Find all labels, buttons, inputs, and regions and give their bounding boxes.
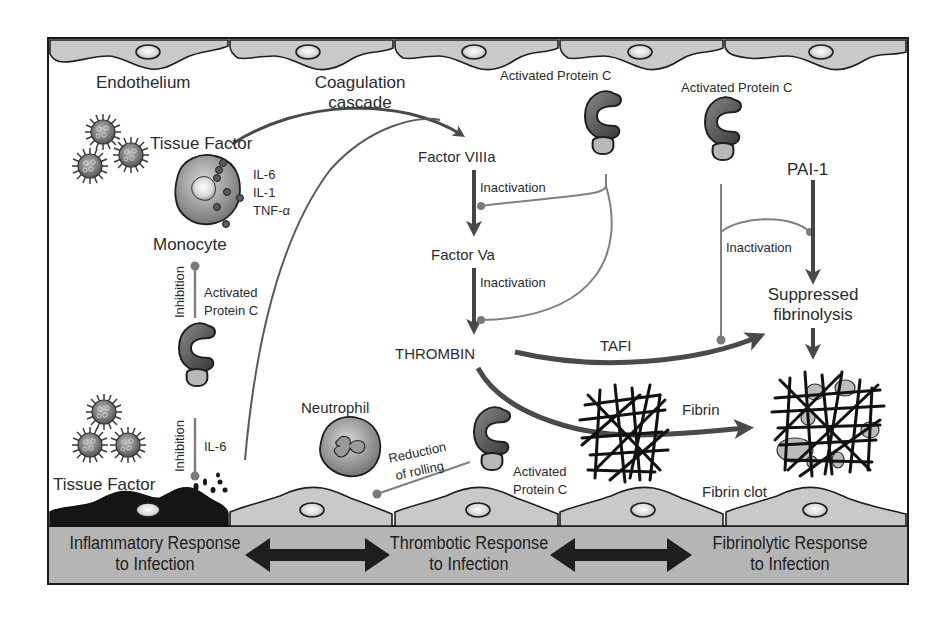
label-suppressed-line1: Suppressed [750, 286, 876, 303]
band-inflammatory-line1: Inflammatory Response [56, 533, 254, 554]
label-apc-left-line1: Activated [204, 286, 257, 299]
label-apc-bottom-line1: Activated [513, 465, 566, 478]
band-fibrinolytic: Fibrinolytic Response to Infection [691, 533, 889, 575]
label-coagulation-cascade-line2: cascade [300, 94, 420, 111]
label-coagulation-cascade-line1: Coagulation [300, 74, 420, 91]
label-cytokine-tnf: TNF-α [253, 204, 290, 217]
label-cytokine-il6: IL-6 [253, 168, 275, 181]
label-apc-left-line2: Protein C [204, 304, 258, 317]
label-thrombin: THROMBIN [395, 346, 475, 361]
label-inactivation-3: Inactivation [726, 241, 792, 254]
label-pai1: PAI-1 [787, 161, 828, 178]
label-factor-va: Factor Va [431, 247, 495, 262]
label-fibrin-clot: Fibrin clot [702, 484, 767, 499]
label-inactivation-2: Inactivation [480, 276, 546, 289]
band-fibrinolytic-line1: Fibrinolytic Response [691, 533, 889, 554]
sepsis-coagulation-diagram: Endothelium Coagulation cascade Activate… [0, 0, 945, 626]
label-fibrin: Fibrin [682, 402, 720, 417]
label-suppressed-line2: fibrinolysis [750, 306, 876, 323]
band-thrombotic: Thrombotic Response to Infection [375, 533, 564, 575]
band-thrombotic-line1: Thrombotic Response [375, 533, 564, 554]
band-inflammatory: Inflammatory Response to Infection [56, 533, 254, 575]
label-tissue-factor-top: Tissue Factor [150, 135, 252, 152]
band-inflammatory-line2: to Infection [56, 554, 254, 575]
neutrophil-cell [320, 417, 380, 476]
label-tissue-factor-bottom: Tissue Factor [53, 476, 155, 493]
label-inactivation-1: Inactivation [480, 181, 546, 194]
label-tafi: TAFI [600, 338, 631, 353]
label-apc-bottom-line2: Protein C [513, 483, 567, 496]
label-monocyte: Monocyte [153, 236, 227, 253]
label-endothelium: Endothelium [96, 74, 191, 91]
label-factor-viiia: Factor VIIIa [418, 149, 496, 164]
label-neutrophil: Neutrophil [301, 400, 369, 415]
label-il6-lower: IL-6 [204, 440, 226, 453]
band-thrombotic-line2: to Infection [375, 554, 564, 575]
band-fibrinolytic-line2: to Infection [691, 554, 889, 575]
label-inhibition-lower: Inhibition [172, 420, 187, 472]
label-apc-top-right: Activated Protein C [681, 81, 792, 94]
label-apc-top-center: Activated Protein C [500, 69, 611, 82]
label-inhibition-upper: Inhibition [172, 266, 187, 318]
label-cytokine-il1: IL-1 [253, 186, 275, 199]
